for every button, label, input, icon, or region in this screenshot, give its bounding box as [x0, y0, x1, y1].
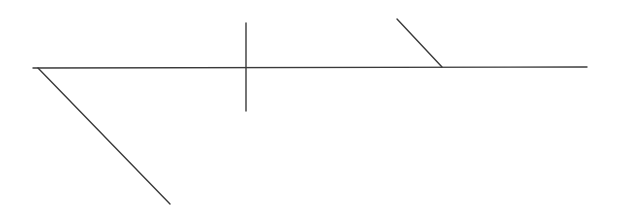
- upper-right-diagonal-line: [397, 19, 442, 67]
- main-horizontal-line: [33, 67, 587, 68]
- diagram-svg: [0, 0, 618, 221]
- lower-left-diagonal-line: [38, 68, 170, 204]
- line-diagram: [0, 0, 618, 221]
